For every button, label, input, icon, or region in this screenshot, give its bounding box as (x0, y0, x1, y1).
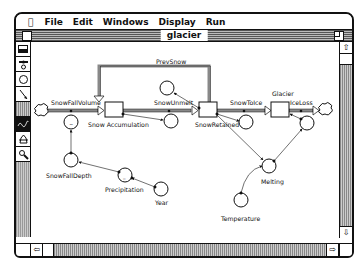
converter-temperature[interactable]: Temperature (220, 193, 260, 223)
window-title-bar[interactable]: glacier (16, 30, 352, 42)
close-box-icon[interactable] (22, 31, 32, 41)
melting-label: Melting (261, 178, 284, 186)
flow-tool-icon[interactable] (16, 57, 30, 72)
window-title: glacier (161, 30, 208, 41)
converter-precipitation[interactable]: _ Precipitation (105, 168, 144, 194)
scroll-down-arrow-icon[interactable]: ⇩ (340, 226, 352, 238)
menu-file[interactable]: File (39, 17, 67, 27)
converter-snow-to-ice[interactable] (239, 115, 253, 129)
menu-run[interactable]: Run (201, 17, 231, 27)
mac-screen:  File Edit Windows Display Run glacier (14, 12, 354, 258)
zoom-box-icon[interactable] (334, 31, 344, 41)
flow-snow-unmelt[interactable]: SnowUnmelt (123, 99, 198, 115)
year-label: Year (154, 199, 169, 206)
converter-snowfall-volume[interactable]: ~ (64, 115, 78, 129)
vertical-scroll-thumb[interactable] (340, 54, 352, 65)
converter-melting[interactable]: Melting (261, 159, 284, 186)
snow-retained-label: SnowRetained (195, 121, 239, 128)
model-canvas[interactable]: SnowFallVolume SnowUnmelt SnowToIce IceL… (31, 42, 337, 236)
ice-loss-label: IceLoss (290, 99, 313, 106)
flow-prev-snow-loop[interactable] (94, 66, 211, 102)
tool-palette (16, 42, 31, 237)
apple-menu-icon[interactable]:  (16, 17, 39, 27)
paint-tool-icon[interactable] (16, 102, 30, 117)
snowfall-depth-label: SnowFallDepth (46, 172, 92, 180)
scroll-left-arrow-icon[interactable]: ⇦ (31, 244, 43, 256)
sink-cloud-icon[interactable] (319, 103, 333, 115)
menu-bar:  File Edit Windows Display Run (16, 14, 352, 30)
flow-ice-loss[interactable]: IceLoss (289, 99, 319, 115)
stock-flow-diagram: SnowFallVolume SnowUnmelt SnowToIce IceL… (31, 42, 337, 236)
scroll-right-arrow-icon[interactable]: ⇨ (326, 244, 339, 256)
scroll-up-arrow-icon[interactable]: ⇧ (340, 42, 352, 54)
converter-snow-unmelt[interactable] (164, 114, 178, 128)
menu-windows[interactable]: Windows (98, 17, 154, 27)
svg-text:~: ~ (69, 121, 73, 127)
grow-box-icon[interactable] (339, 243, 352, 256)
connector-tool-icon[interactable] (16, 87, 30, 102)
glacier-label: Glacier (272, 90, 294, 97)
palette-corner (16, 244, 31, 256)
temperature-label: Temperature (220, 215, 260, 223)
ghost-tool-icon[interactable] (16, 132, 30, 147)
prev-snow-label: PrevSnow (156, 58, 186, 65)
horizontal-scrollbar[interactable]: ⇦ ⇨ (16, 243, 352, 256)
flow-snowfall-volume[interactable]: SnowFallVolume (48, 99, 104, 115)
snow-accumulation-label: Snow Accumulation (88, 121, 149, 128)
snow-unmelt-label: SnowUnmelt (154, 99, 194, 106)
converter-year[interactable]: Year (154, 182, 169, 206)
converter-snowfall-depth[interactable]: SnowFallDepth (46, 153, 92, 180)
svg-text:_: _ (122, 173, 126, 180)
snowfall-volume-label: SnowFallVolume (51, 99, 101, 106)
precipitation-label: Precipitation (105, 186, 144, 194)
converter-tool-icon[interactable] (16, 72, 30, 87)
magnifier-tool-icon[interactable] (16, 147, 30, 162)
menu-edit[interactable]: Edit (68, 17, 98, 27)
flow-snow-to-ice[interactable]: SnowToIce (217, 99, 271, 115)
snow-to-ice-label: SnowToIce (230, 99, 262, 106)
converter-prev-snow[interactable]: PrevSnow (156, 58, 186, 95)
dynamite-tool-icon[interactable] (16, 117, 30, 132)
horizontal-scroll-thumb[interactable] (43, 244, 54, 256)
stock-tool-icon[interactable] (16, 42, 30, 57)
vertical-scrollbar[interactable]: ⇧ ⇩ (339, 42, 352, 238)
source-cloud-icon[interactable] (35, 104, 49, 116)
menu-display[interactable]: Display (154, 17, 201, 27)
